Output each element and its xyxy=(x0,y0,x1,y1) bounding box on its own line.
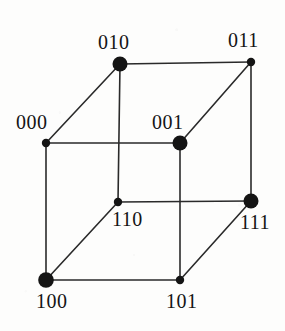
vertex-label-101: 101 xyxy=(166,291,198,311)
vertex-label-001: 001 xyxy=(152,112,184,132)
cube-edge xyxy=(46,202,118,280)
cube-vertex-001[interactable] xyxy=(173,136,188,151)
cube-edge xyxy=(46,64,120,143)
cube-vertex-110[interactable] xyxy=(114,198,122,206)
cube-edge xyxy=(120,62,251,64)
cube-vertex-100[interactable] xyxy=(38,272,54,288)
cube-edge xyxy=(118,64,120,202)
cube-vertex-111[interactable] xyxy=(244,194,259,209)
cube-vertex-101[interactable] xyxy=(176,276,184,284)
cube-graph-figure: 010011000001110111100101 xyxy=(0,0,285,331)
vertex-label-100: 100 xyxy=(36,291,68,311)
edge-layer xyxy=(46,62,251,280)
vertex-label-010: 010 xyxy=(98,32,130,52)
cube-vertex-011[interactable] xyxy=(247,58,255,66)
vertex-label-111: 111 xyxy=(240,212,270,232)
cube-edge xyxy=(118,201,251,202)
cube-vertex-010[interactable] xyxy=(113,57,128,72)
vertex-label-011: 011 xyxy=(228,30,259,50)
cube-vertex-000[interactable] xyxy=(42,139,50,147)
cube-edge xyxy=(180,62,251,143)
vertex-label-000: 000 xyxy=(16,112,48,132)
vertex-label-110: 110 xyxy=(112,209,143,229)
